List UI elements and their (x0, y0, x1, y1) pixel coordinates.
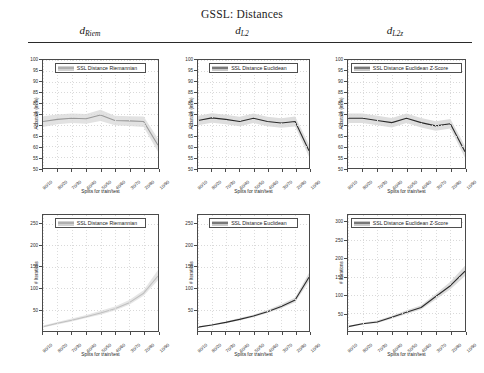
y-tick-mark (344, 103, 347, 104)
y-tick-label: 60 (188, 145, 193, 150)
legend-line-swatch (212, 221, 228, 226)
plot-accuracy-euclidean[interactable]: 5055606570758085909510090/1080/2070/3060… (197, 59, 310, 169)
y-tick-label: 95 (33, 68, 38, 73)
gridline-vertical (450, 60, 451, 168)
y-tick-label: 90 (338, 79, 343, 84)
legend-line-swatch (212, 66, 228, 71)
y-tick-mark (194, 103, 197, 104)
x-tick-mark (296, 332, 297, 335)
y-tick-mark (194, 223, 197, 224)
header-divider (28, 42, 472, 43)
x-tick-mark (377, 169, 378, 172)
y-tick-label: 50 (338, 311, 343, 316)
gridline-vertical (450, 215, 451, 331)
y-tick-mark (344, 158, 347, 159)
x-tick-mark (239, 169, 240, 172)
x-tick-mark (421, 169, 422, 172)
y-tick-mark (39, 245, 42, 246)
column-header-2-subscript: L2z (392, 29, 403, 38)
plot-legend[interactable]: SSL Distance Euclidean Z-Score (351, 218, 463, 228)
plot-area (347, 214, 466, 332)
x-tick-mark (71, 169, 72, 172)
gridline-vertical (392, 60, 393, 168)
y-tick-label: 250 (185, 220, 193, 225)
gridline-vertical (57, 60, 58, 168)
x-tick-mark (407, 169, 408, 172)
plot-legend[interactable]: SSL Distance Riemannian (55, 63, 147, 73)
gridline-vertical (407, 60, 408, 168)
plot-legend[interactable]: SSL Distance Euclidean (209, 63, 298, 73)
plot-accuracy-euclidean-zscore[interactable]: 5055606570758085909510090/1080/2070/3060… (347, 59, 466, 169)
plot-accuracy-riemannian[interactable]: 5055606570758085909510090/1080/2070/3060… (42, 59, 159, 169)
y-tick-mark (344, 81, 347, 82)
plot-iterations-riemannian[interactable]: 5010015020025090/1080/2070/3060/4050/504… (42, 214, 159, 332)
y-tick-mark (344, 295, 347, 296)
x-axis-label: Splits for train/test (42, 352, 159, 357)
column-header-0-subscript: Riem (85, 29, 100, 38)
plot-iterations-euclidean-zscore[interactable]: 5010015020025030090/1080/2070/3060/4050/… (347, 214, 466, 332)
x-tick-mark (239, 332, 240, 335)
y-tick-label: 250 (30, 220, 38, 225)
y-tick-mark (39, 114, 42, 115)
x-tick-mark (466, 169, 467, 172)
y-tick-mark (39, 158, 42, 159)
x-tick-mark (144, 332, 145, 335)
x-tick-label: 10/90 (159, 342, 171, 353)
legend-label: SSL Distance Euclidean (231, 221, 286, 226)
x-tick-mark (310, 169, 311, 172)
figure-canvas: GSSL: Distances dRiem dL2 dL2z 505560657… (0, 0, 484, 373)
y-tick-mark (344, 92, 347, 93)
gridline-vertical (465, 60, 466, 168)
gridline-vertical (295, 60, 296, 168)
y-tick-label: 90 (33, 79, 38, 84)
y-tick-mark (194, 125, 197, 126)
y-tick-mark (39, 136, 42, 137)
x-tick-mark (282, 169, 283, 172)
x-tick-mark (42, 332, 43, 335)
legend-label: SSL Distance Euclidean (231, 66, 286, 71)
gridline-vertical (281, 215, 282, 331)
y-tick-label: 100 (185, 57, 193, 62)
gridline-vertical (43, 215, 44, 331)
y-tick-mark (344, 240, 347, 241)
x-tick-mark (130, 332, 131, 335)
x-axis-label: Splits for train/test (42, 189, 159, 194)
y-tick-label: 50 (33, 308, 38, 313)
column-header-2: dL2z (315, 24, 475, 38)
x-tick-mark (130, 169, 131, 172)
x-tick-mark (211, 332, 212, 335)
x-tick-mark (362, 169, 363, 172)
x-tick-mark (144, 169, 145, 172)
gridline-vertical (309, 215, 310, 331)
y-axis-label: # Iterations (34, 245, 39, 301)
plot-legend[interactable]: SSL Distance Riemannian (55, 218, 147, 228)
y-tick-mark (39, 310, 42, 311)
gridline-vertical (86, 215, 87, 331)
x-tick-label: 10/90 (159, 179, 171, 190)
y-tick-mark (344, 277, 347, 278)
x-tick-mark (268, 332, 269, 335)
y-tick-label: 50 (188, 167, 193, 172)
x-tick-mark (86, 169, 87, 172)
plot-iterations-euclidean[interactable]: 5010015020025090/1080/2070/3060/4050/504… (197, 214, 310, 332)
y-tick-label: 50 (188, 308, 193, 313)
gridline-vertical (72, 60, 73, 168)
y-axis-label: Accuracy (in %) (34, 86, 39, 142)
plot-legend[interactable]: SSL Distance Euclidean Z-Score (351, 63, 463, 73)
gridline-vertical (226, 60, 227, 168)
plot-legend[interactable]: SSL Distance Euclidean (209, 218, 298, 228)
y-tick-mark (344, 221, 347, 222)
gridline-vertical (421, 60, 422, 168)
y-axis-label: # Iterations (189, 245, 194, 301)
gridline-vertical (43, 60, 44, 168)
x-tick-mark (159, 169, 160, 172)
gridline-vertical (267, 60, 268, 168)
gridline-vertical (309, 60, 310, 168)
y-tick-mark (39, 70, 42, 71)
y-tick-mark (344, 59, 347, 60)
y-tick-mark (39, 103, 42, 104)
x-tick-mark (436, 169, 437, 172)
legend-label: SSL Distance Riemannian (77, 66, 137, 71)
y-tick-mark (344, 136, 347, 137)
x-tick-mark (115, 169, 116, 172)
